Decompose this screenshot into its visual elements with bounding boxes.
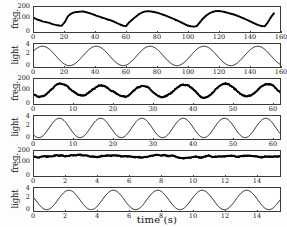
xtick-mark (65, 175, 66, 177)
xtick-mark (193, 175, 194, 177)
plot-panel-light-2 (33, 115, 281, 140)
freq-trace-3 (34, 151, 280, 176)
figure-container: freq. 200 100 0 light 4 2 0 freq. 200 10… (0, 0, 287, 227)
light-trace-1 (34, 44, 280, 67)
xtick-label: 50 (229, 141, 237, 148)
xtick-label: 4 (95, 213, 99, 220)
xtick-label: 30 (149, 106, 157, 113)
xtick-label: 8 (159, 213, 163, 220)
xtick-mark (64, 31, 65, 33)
xtick-mark (129, 175, 130, 177)
xtick-mark (33, 175, 34, 177)
xtick-mark (73, 103, 74, 105)
xtick-mark (281, 31, 282, 33)
ytick-light-2-0: 0 (8, 134, 30, 140)
xtick-mark (113, 103, 114, 105)
plot-panel-freq-2 (33, 78, 281, 105)
xtick-mark (65, 210, 66, 212)
xtick-mark (273, 103, 274, 105)
xtick-mark (161, 210, 162, 212)
xtick-mark (193, 138, 194, 140)
xtick-mark (33, 138, 34, 140)
xtick-label: 14 (253, 178, 261, 185)
xtick-mark (225, 210, 226, 212)
xtick-label: 8 (159, 178, 163, 185)
xtick-label: 10 (69, 106, 77, 113)
xtick-label: 0 (31, 213, 35, 220)
xtick-label: 0 (31, 178, 35, 185)
xtick-label: 12 (221, 213, 229, 220)
ytick-freq-1-0: 0 (8, 28, 30, 34)
xtick-label: 50 (229, 106, 237, 113)
xtick-mark (193, 210, 194, 212)
plot-area-freq-3 (33, 150, 281, 177)
plot-area-freq-2 (33, 78, 281, 105)
xtick-mark (126, 31, 127, 33)
xtick-mark (33, 66, 34, 68)
xtick-label: 20 (109, 106, 117, 113)
xtick-label: 30 (149, 141, 157, 148)
xaxis-label: time (s) (33, 214, 281, 225)
ytick-freq-2-100: 100 (8, 86, 30, 92)
xtick-mark (157, 66, 158, 68)
xtick-mark (188, 31, 189, 33)
xtick-label: 40 (189, 141, 197, 148)
ytick-light-3-2: 2 (8, 194, 30, 200)
xtick-label: 120 (213, 69, 225, 76)
plot-area-light-2 (33, 115, 281, 140)
xtick-label: 20 (60, 34, 68, 41)
xtick-mark (33, 210, 34, 212)
xtick-label: 10 (189, 178, 197, 185)
xtick-mark (161, 175, 162, 177)
xtick-mark (219, 66, 220, 68)
xtick-mark (33, 31, 34, 33)
ytick-light-3-4: 4 (8, 185, 30, 191)
freq-trace-2 (34, 79, 280, 104)
xtick-mark (73, 138, 74, 140)
ytick-light-3-0: 0 (8, 206, 30, 212)
xtick-mark (257, 175, 258, 177)
ytick-light-1-2: 2 (8, 50, 30, 56)
xtick-label: 60 (122, 34, 130, 41)
xtick-label: 60 (269, 106, 277, 113)
xtick-mark (233, 103, 234, 105)
ytick-light-1-0: 0 (8, 62, 30, 68)
ytick-freq-3-100: 100 (8, 158, 30, 164)
plot-area-light-3 (33, 187, 281, 212)
xtick-label: 140 (244, 34, 256, 41)
ytick-freq-2-200: 200 (8, 75, 30, 81)
xtick-label: 120 (213, 34, 225, 41)
plot-panel-freq-1 (33, 6, 281, 33)
xtick-label: 160 (275, 69, 287, 76)
ytick-freq-2-0: 0 (8, 100, 30, 106)
xtick-mark (193, 103, 194, 105)
light-trace-2 (34, 116, 280, 139)
xtick-label: 60 (269, 141, 277, 148)
xtick-label: 160 (275, 34, 287, 41)
xtick-mark (97, 210, 98, 212)
xtick-label: 0 (31, 69, 35, 76)
plot-panel-freq-3 (33, 150, 281, 177)
xtick-mark (33, 103, 34, 105)
xtick-label: 40 (91, 34, 99, 41)
xtick-label: 80 (153, 34, 161, 41)
xtick-label: 2 (63, 213, 67, 220)
xtick-mark (64, 66, 65, 68)
xtick-label: 10 (69, 141, 77, 148)
xtick-mark (257, 210, 258, 212)
xtick-label: 20 (109, 141, 117, 148)
ytick-freq-3-200: 200 (8, 147, 30, 153)
xtick-mark (225, 175, 226, 177)
ytick-freq-3-0: 0 (8, 172, 30, 178)
xtick-mark (95, 31, 96, 33)
xtick-mark (126, 66, 127, 68)
xtick-mark (250, 66, 251, 68)
xtick-mark (157, 31, 158, 33)
xtick-mark (273, 138, 274, 140)
xtick-label: 40 (189, 106, 197, 113)
ytick-freq-1-200: 200 (8, 3, 30, 9)
plot-area-light-1 (33, 43, 281, 68)
plot-panel-light-3 (33, 187, 281, 212)
xtick-label: 60 (122, 69, 130, 76)
ytick-light-2-2: 2 (8, 122, 30, 128)
